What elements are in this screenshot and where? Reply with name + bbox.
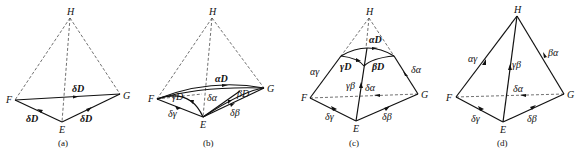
vertex-F: F xyxy=(300,92,308,103)
vertex-E: E xyxy=(499,124,506,135)
vertex-E: E xyxy=(199,119,206,130)
label-alphaGamma: αγ xyxy=(310,66,320,77)
label-EG: δβ xyxy=(230,107,240,118)
label-EF: δγ xyxy=(471,113,481,124)
caption-a: (a) xyxy=(58,138,68,148)
panel-a: H F G E δD δD δD (a) xyxy=(5,6,130,148)
label-alphaD: αD xyxy=(215,73,228,84)
vertex-E: E xyxy=(58,124,65,135)
caption-c: (c) xyxy=(349,138,359,148)
vertex-G: G xyxy=(267,83,274,94)
edge-HF xyxy=(15,18,70,100)
label-betaD: βD xyxy=(236,88,250,99)
label-FG: δα xyxy=(513,83,524,94)
label-GH: βα xyxy=(547,47,559,58)
edge-FG xyxy=(310,94,418,98)
arrow-GH xyxy=(543,52,547,58)
label-FH: αγ xyxy=(468,53,478,64)
label-gammaBeta: γβ xyxy=(346,80,355,91)
edge-F-alphaGamma xyxy=(310,56,341,98)
caption-b: (b) xyxy=(203,138,214,148)
panel-d: H F G E αγ γβ βα δα δγ δβ (d) xyxy=(445,4,574,148)
edge-FE xyxy=(15,100,62,122)
label-EG: δβ xyxy=(527,113,537,124)
label-EF: δD xyxy=(26,113,38,124)
vertex-H: H xyxy=(66,6,75,17)
arrow-G-deltaAlpha xyxy=(403,71,408,76)
arrow-FG xyxy=(374,94,380,97)
vertex-H: H xyxy=(365,6,374,17)
label-EF: δγ xyxy=(325,111,335,122)
vertex-E: E xyxy=(352,123,359,134)
arrow-FG xyxy=(520,94,526,97)
edge-FG xyxy=(456,94,564,97)
label-gammaD: γD xyxy=(340,61,351,72)
label-EF: δγ xyxy=(168,108,178,119)
edge-FG xyxy=(15,94,120,100)
label-EH: γβ xyxy=(512,59,521,70)
vertex-G: G xyxy=(421,89,428,100)
vertex-H: H xyxy=(208,6,217,17)
arc-alphaD xyxy=(341,48,394,56)
vertex-G: G xyxy=(123,90,130,101)
label-EG: δD xyxy=(80,113,92,124)
label-deltaAlpha: δα xyxy=(207,92,218,103)
edge-HE xyxy=(62,18,70,122)
panel-b: H F G E αD γD δα βD δγ δβ (b) xyxy=(147,6,274,148)
label-FG: δD xyxy=(72,83,84,94)
arrow-EF xyxy=(478,106,484,111)
label-G-deltaAlpha: δα xyxy=(411,64,422,75)
caption-d: (d) xyxy=(497,138,508,148)
vertex-F: F xyxy=(445,92,453,103)
vertex-F: F xyxy=(147,93,155,104)
vertex-G: G xyxy=(567,89,574,100)
arrow-EG xyxy=(86,107,92,112)
label-betaD: βD xyxy=(371,61,384,72)
label-FG: δα xyxy=(365,82,376,93)
tetrahedron-figure: H F G E δD δD δD (a) H F G E αD γD δα βD… xyxy=(0,0,578,151)
label-gammaD: γD xyxy=(172,91,184,102)
panel-c: H F G E αD γD βD αγ δα γβ δα δγ δβ (c) xyxy=(300,6,428,148)
vertex-F: F xyxy=(5,94,13,105)
label-alphaD: αD xyxy=(369,34,382,45)
arrow-gammaD xyxy=(356,58,361,62)
vertex-H: H xyxy=(513,4,522,15)
label-EG: δβ xyxy=(382,111,392,122)
arrow-center xyxy=(359,82,363,88)
